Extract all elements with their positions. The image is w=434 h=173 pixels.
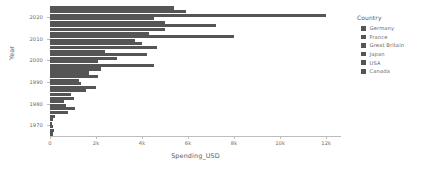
y-tick-label: 1970	[29, 122, 43, 128]
legend: Country GermanyFranceGreat BritainJapanU…	[357, 14, 433, 76]
y-tick-label: 1990	[29, 79, 43, 85]
x-tick-label: 10k	[275, 140, 285, 146]
y-tick-label: 2010	[29, 36, 43, 42]
x-axis-title: Spending_USD	[50, 152, 341, 160]
x-tick-mark	[188, 136, 189, 139]
x-tick-mark	[50, 136, 51, 139]
legend-swatch-icon	[361, 43, 366, 48]
legend-swatch-icon	[361, 35, 366, 40]
x-tick-label: 2k	[93, 140, 100, 146]
legend-item-label: France	[370, 34, 388, 40]
bar	[50, 24, 216, 27]
legend-item[interactable]: France	[361, 33, 433, 42]
y-tick-label: 2000	[29, 57, 43, 63]
legend-item-label: Great Britain	[370, 42, 404, 48]
legend-swatch-icon	[361, 26, 366, 31]
x-tick-label: 6k	[185, 140, 192, 146]
legend-item[interactable]: Canada	[361, 67, 433, 76]
legend-item[interactable]: Germany	[361, 24, 433, 33]
y-axis-title: Year	[8, 46, 16, 60]
x-tick-label: 0	[48, 140, 51, 146]
legend-item[interactable]: USA	[361, 58, 433, 67]
bar-chart: Year 202020102000199019801970 02k4k6k8k1…	[0, 0, 434, 173]
legend-item-label: Germany	[370, 25, 395, 31]
legend-item-label: USA	[370, 60, 381, 66]
legend-item[interactable]: Japan	[361, 50, 433, 59]
bar	[50, 111, 68, 114]
x-tick-mark	[142, 136, 143, 139]
legend-swatch-icon	[361, 52, 366, 57]
legend-swatch-icon	[361, 60, 366, 65]
legend-swatch-icon	[361, 69, 366, 74]
bar	[50, 89, 86, 92]
x-tick-mark	[234, 136, 235, 139]
legend-item[interactable]: Great Britain	[361, 41, 433, 50]
plot-area	[50, 6, 340, 136]
legend-item-label: Japan	[370, 51, 385, 57]
bar	[50, 67, 101, 70]
x-tick-label: 8k	[231, 140, 238, 146]
legend-items: GermanyFranceGreat BritainJapanUSACanada	[357, 24, 433, 76]
x-tick-label: 4k	[139, 140, 146, 146]
x-tick-mark	[280, 136, 281, 139]
legend-title: Country	[357, 14, 433, 21]
x-tick-mark	[326, 136, 327, 139]
x-tick-label: 12k	[321, 140, 331, 146]
y-tick-label: 1980	[29, 101, 43, 107]
y-tick-label: 2020	[29, 14, 43, 20]
bar	[50, 46, 157, 49]
legend-item-label: Canada	[370, 68, 390, 74]
x-axis-line	[50, 136, 341, 137]
x-tick-mark	[96, 136, 97, 139]
